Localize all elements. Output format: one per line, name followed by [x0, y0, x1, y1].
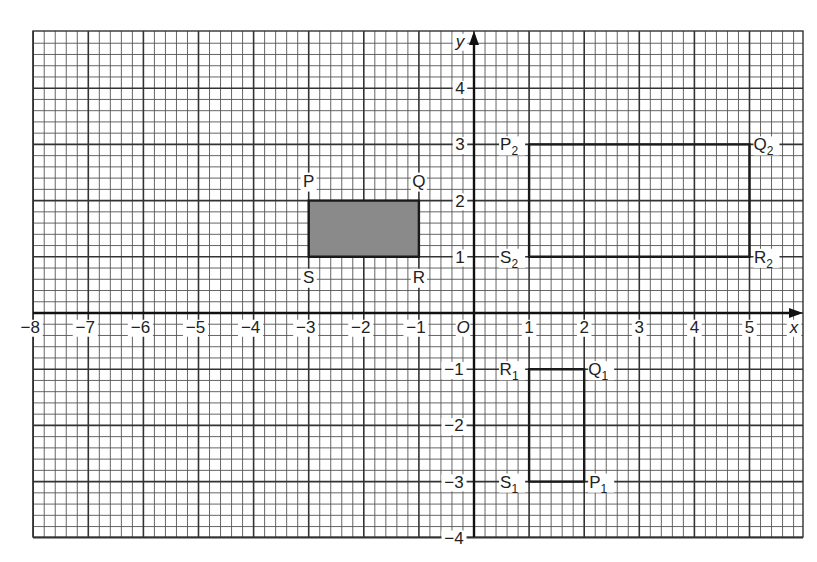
- x-axis-label: x: [789, 318, 799, 337]
- y-tick-label: −1: [444, 360, 463, 379]
- x-tick-label: −1: [406, 318, 425, 337]
- x-tick-label: 2: [579, 318, 588, 337]
- vertex-label-p: P: [303, 172, 314, 191]
- x-tick-label: −6: [131, 318, 150, 337]
- x-tick-label: −5: [186, 318, 205, 337]
- x-tick-label: −4: [241, 318, 260, 337]
- y-axis-label: y: [455, 32, 466, 51]
- coordinate-grid-figure: −8−7−6−5−4−3−2−112345Ox4321−1−2−3−4yPQRS…: [0, 0, 817, 562]
- y-tick-label: −3: [444, 473, 463, 492]
- y-tick-label: −2: [444, 416, 463, 435]
- x-tick-label: 3: [635, 318, 644, 337]
- x-tick-label: 1: [524, 318, 533, 337]
- y-tick-label: 2: [455, 192, 464, 211]
- grid-plot: −8−7−6−5−4−3−2−112345Ox4321−1−2−3−4yPQRS…: [0, 0, 817, 562]
- y-tick-label: 4: [455, 79, 464, 98]
- vertex-label-r: R: [413, 268, 425, 287]
- y-tick-label: −4: [444, 529, 463, 548]
- x-tick-label: 4: [690, 318, 699, 337]
- origin-label: O: [456, 318, 469, 337]
- vertex-label-s: S: [303, 268, 314, 287]
- shape-pqrs: [309, 201, 419, 257]
- y-tick-label: 1: [455, 248, 464, 267]
- vertex-label-q: Q: [412, 172, 425, 191]
- x-tick-label: 5: [745, 318, 754, 337]
- x-tick-label: −2: [351, 318, 370, 337]
- x-tick-label: −8: [21, 318, 40, 337]
- x-tick-label: −3: [296, 318, 315, 337]
- x-axis-arrow-icon: [789, 308, 803, 318]
- y-axis-arrow-icon: [469, 31, 479, 45]
- x-tick-label: −7: [76, 318, 95, 337]
- y-tick-label: 3: [455, 135, 464, 154]
